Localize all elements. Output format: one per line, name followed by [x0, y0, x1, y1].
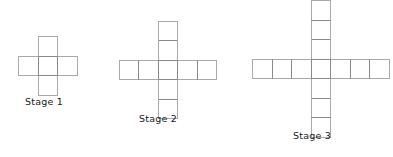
- stage-label-3: Stage 3: [293, 130, 331, 142]
- pattern-figure-canvas: [0, 0, 393, 157]
- stage-shape-1: [19, 37, 78, 96]
- pattern-square: [119, 60, 139, 80]
- pattern-square: [58, 56, 78, 76]
- stage-shape-2: [119, 21, 217, 119]
- stages-layer: [19, 1, 390, 138]
- pattern-square: [311, 40, 331, 60]
- pattern-square: [311, 20, 331, 40]
- pattern-square: [311, 98, 331, 118]
- pattern-square: [311, 1, 331, 21]
- stage-label-1: Stage 1: [25, 96, 63, 108]
- pattern-square: [38, 56, 58, 76]
- pattern-square: [370, 59, 390, 79]
- pattern-square: [139, 60, 159, 80]
- pattern-square: [272, 59, 292, 79]
- pattern-square: [19, 56, 39, 76]
- stage-label-2: Stage 2: [139, 113, 177, 125]
- pattern-square: [311, 79, 331, 99]
- pattern-square: [178, 60, 198, 80]
- pattern-square: [38, 37, 58, 57]
- pattern-square: [311, 59, 331, 79]
- pattern-square: [292, 59, 312, 79]
- pattern-square: [158, 41, 178, 61]
- pattern-square: [331, 59, 351, 79]
- pattern-square: [350, 59, 370, 79]
- pattern-square: [38, 76, 58, 96]
- pattern-square: [158, 60, 178, 80]
- pattern-square: [197, 60, 217, 80]
- pattern-square: [253, 59, 273, 79]
- stage-shape-3: [253, 1, 390, 138]
- pattern-square: [158, 80, 178, 100]
- pattern-square: [158, 21, 178, 41]
